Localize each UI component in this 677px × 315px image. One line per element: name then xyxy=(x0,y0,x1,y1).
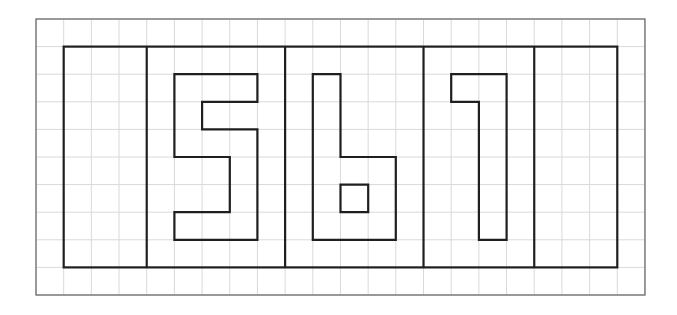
digit-inner-hole xyxy=(341,185,369,213)
grid-diagram xyxy=(0,0,677,315)
